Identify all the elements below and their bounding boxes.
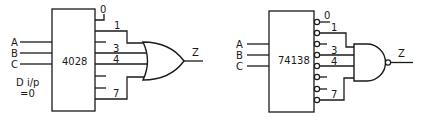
output-4-bubble: [314, 63, 319, 68]
right-output-z-label: Z: [398, 48, 405, 59]
output-1-wire: [95, 31, 144, 43]
left-outputs: 0 1 3 4 7: [95, 4, 148, 99]
d-input-note: D i/p: [16, 77, 39, 88]
output-0-label: 0: [100, 4, 106, 15]
output-4-label: 4: [331, 56, 337, 67]
right-circuit: A B C 74138 0 1: [236, 10, 413, 112]
output-1-label: 1: [331, 22, 337, 33]
input-b-label: B: [236, 50, 243, 61]
input-a-label: A: [11, 37, 18, 48]
decoder-74138-label: 74138: [278, 55, 310, 66]
input-a-label: A: [236, 39, 243, 50]
input-c-label: C: [11, 59, 18, 70]
nand-gate: [354, 44, 386, 81]
output-1-label: 1: [114, 20, 120, 31]
output-2-bubble: [314, 41, 319, 46]
output-3-bubble: [314, 52, 319, 57]
output-7-label: 7: [113, 88, 119, 99]
output-7-label: 7: [331, 89, 337, 100]
output-3-label: 3: [113, 43, 119, 54]
output-5-bubble: [314, 74, 319, 79]
right-inputs: A B C: [236, 39, 269, 72]
right-output-bubbles: [314, 19, 319, 102]
output-0-label: 0: [324, 10, 330, 21]
output-6-bubble: [314, 86, 319, 91]
left-circuit: A B C D i/p =0 4028 0 1 3 4 7 Z: [11, 4, 203, 111]
or-gate: [143, 42, 184, 80]
input-c-label: C: [236, 61, 243, 72]
left-output-z-label: Z: [192, 47, 199, 58]
nand-gate-output-bubble: [385, 60, 390, 65]
decoder-4028-label: 4028: [62, 56, 87, 67]
left-inputs: A B C D i/p =0: [11, 37, 52, 99]
input-b-label: B: [11, 48, 18, 59]
right-outputs: 0 1 3 4 7: [320, 10, 354, 100]
output-4-label: 4: [113, 54, 119, 65]
output-3-label: 3: [331, 45, 337, 56]
d-input-value: =0: [20, 88, 35, 99]
output-0-bubble: [314, 19, 319, 24]
output-7-bubble: [314, 97, 319, 102]
logic-diagram: A B C D i/p =0 4028 0 1 3 4 7 Z: [0, 0, 425, 122]
output-1-bubble: [314, 30, 319, 35]
